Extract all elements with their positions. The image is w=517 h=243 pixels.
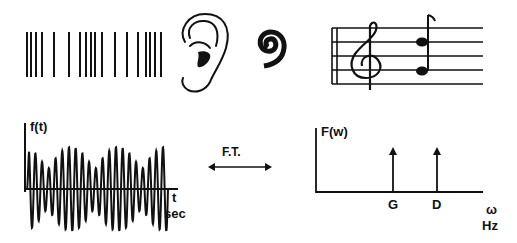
- freq-x-label: ω: [486, 202, 497, 217]
- fourier-transform-arrow: F.T.: [208, 145, 272, 171]
- time-plot: f(t) t sec: [25, 119, 186, 231]
- cochlea-spiral-icon: [260, 32, 284, 66]
- arrow-right-icon: [265, 163, 272, 171]
- peak-g-label: G: [388, 197, 398, 212]
- time-y-label: f(t): [30, 119, 47, 134]
- freq-y-label: F(w): [321, 124, 348, 139]
- time-x-label: t: [172, 190, 177, 205]
- music-notes-icon: [416, 15, 435, 76]
- freq-plot: F(w) G D ω Hz: [316, 124, 498, 233]
- ear-canal-icon: [197, 51, 210, 67]
- peak-d: [433, 147, 441, 192]
- time-x-unit: sec: [164, 206, 186, 221]
- peak-g: [389, 147, 397, 192]
- sound-wave-bars-icon: [27, 32, 161, 77]
- arrow-up-icon: [433, 147, 441, 155]
- arrow-left-icon: [208, 163, 215, 171]
- freq-x-unit: Hz: [482, 218, 498, 233]
- ft-label: F.T.: [222, 145, 241, 159]
- fourier-diagram: f(t) t sec F.T. F(w) G D ω Hz: [0, 0, 517, 243]
- arrow-up-icon: [389, 147, 397, 155]
- peak-d-label: D: [432, 197, 441, 212]
